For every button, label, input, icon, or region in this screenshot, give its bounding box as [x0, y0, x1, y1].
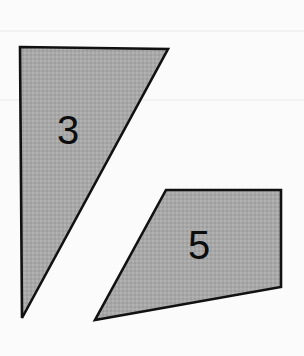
shape-group-quadrilateral[interactable]: 5 [95, 190, 281, 320]
quadrilateral-label: 5 [188, 223, 210, 267]
shapes-svg: 3 5 [0, 0, 304, 356]
triangle-label: 3 [57, 108, 79, 152]
shape-diagram-canvas: 3 5 [0, 0, 304, 356]
